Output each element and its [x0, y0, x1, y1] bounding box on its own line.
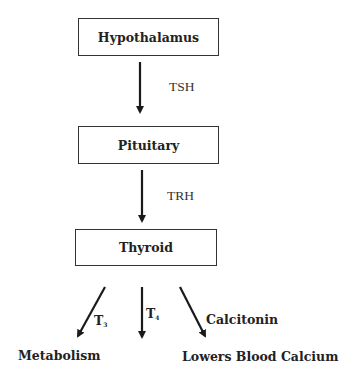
node-pituitary: Pituitary [78, 126, 219, 164]
node-thyroid: Thyroid [75, 229, 217, 266]
arrow-thyroid-to-blood-calcium [180, 287, 205, 336]
outcome-lowers-blood-calcium: Lowers Blood Calcium [182, 349, 338, 364]
edge-label-t4-sub: 4 [155, 314, 159, 321]
edge-label-t3-base: T [94, 313, 103, 328]
node-thyroid-label: Thyroid [119, 240, 173, 255]
node-pituitary-label: Pituitary [118, 138, 179, 153]
edge-label-t4-base: T [146, 306, 155, 321]
outcome-metabolism: Metabolism [18, 348, 101, 363]
edge-label-trh: TRH [167, 188, 194, 204]
edge-label-t3: T3 [94, 313, 108, 328]
arrow-thyroid-to-metabolism [78, 287, 105, 336]
edge-label-t4: T4 [146, 306, 160, 321]
node-hypothalamus-label: Hypothalamus [98, 30, 199, 45]
edge-label-tsh: TSH [169, 79, 195, 95]
node-hypothalamus: Hypothalamus [78, 18, 219, 56]
edge-label-t3-sub: 3 [103, 321, 107, 328]
edge-label-calcitonin: Calcitonin [206, 312, 278, 327]
